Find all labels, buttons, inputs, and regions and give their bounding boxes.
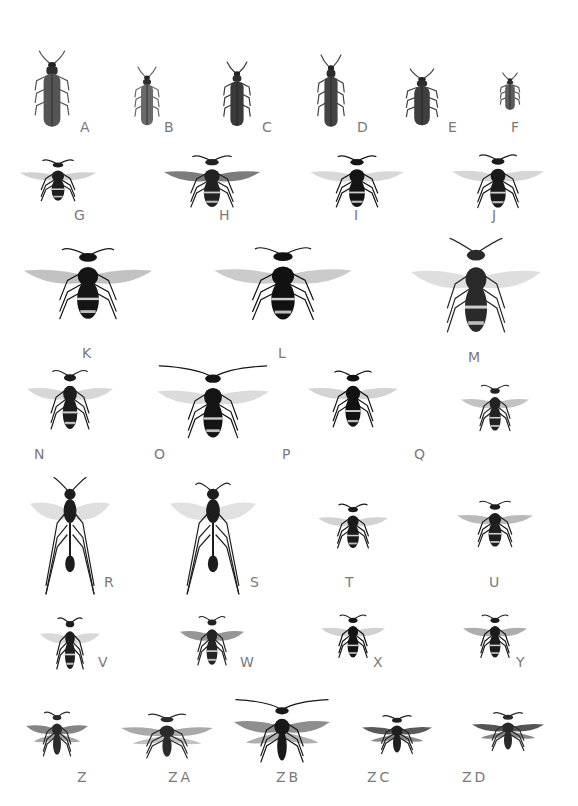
wasp-illustration-icon bbox=[24, 242, 152, 338]
beetle-illustration-icon bbox=[320, 55, 342, 129]
specimen-e bbox=[409, 69, 435, 127]
specimen-g bbox=[20, 156, 96, 212]
specimen-label: S bbox=[250, 575, 262, 589]
specimen-label: P bbox=[282, 447, 293, 461]
specimen-t bbox=[318, 500, 388, 560]
specimen-w bbox=[180, 612, 244, 678]
wasp-illustration-icon bbox=[157, 364, 269, 456]
specimen-label: D bbox=[357, 120, 371, 134]
specimen-n bbox=[27, 365, 113, 445]
specimen-label: Q bbox=[414, 447, 428, 461]
specimen-z bbox=[26, 708, 88, 768]
specimen-label: H bbox=[219, 208, 233, 222]
moth-illustration-icon bbox=[26, 708, 88, 768]
specimen-p bbox=[308, 366, 398, 442]
wasp-illustration-icon bbox=[461, 381, 529, 443]
specimen-label: R bbox=[104, 575, 117, 589]
specimen-zd bbox=[472, 709, 544, 761]
wasp-illustration-icon bbox=[20, 156, 96, 212]
specimen-label: E bbox=[448, 120, 460, 134]
specimen-s bbox=[170, 475, 256, 595]
specimen-v bbox=[40, 613, 100, 683]
specimen-label: U bbox=[489, 575, 502, 589]
wasp-illustration-icon bbox=[308, 366, 398, 442]
beetle-illustration-icon bbox=[38, 51, 66, 129]
specimen-label: K bbox=[82, 346, 94, 360]
specimen-label: ZD bbox=[462, 770, 488, 784]
specimen-label: T bbox=[345, 575, 357, 589]
moth-illustration-icon bbox=[121, 710, 213, 770]
moth-illustration-icon bbox=[362, 712, 432, 764]
specimen-label: M bbox=[468, 350, 483, 364]
ichneumon-illustration-icon bbox=[30, 475, 110, 595]
wasp-illustration-icon bbox=[411, 236, 541, 356]
specimen-h bbox=[164, 151, 260, 221]
specimen-label: ZC bbox=[367, 770, 392, 784]
specimen-label: W bbox=[240, 655, 257, 669]
specimen-label: C bbox=[262, 120, 275, 134]
wasp-illustration-icon bbox=[318, 500, 388, 560]
specimen-l bbox=[214, 241, 352, 339]
specimen-label: Y bbox=[516, 655, 528, 669]
specimen-plate: ABCDEFGHIJKLMNOPQRSTUVWXYZZAZBZCZD bbox=[0, 0, 578, 806]
specimen-label: ZA bbox=[168, 770, 193, 784]
specimen-m bbox=[411, 236, 541, 356]
specimen-label: V bbox=[98, 655, 111, 669]
specimen-label: A bbox=[80, 120, 93, 134]
specimen-label: I bbox=[354, 208, 361, 222]
moth-illustration-icon bbox=[234, 698, 330, 778]
wasp-illustration-icon bbox=[40, 613, 100, 683]
specimen-c bbox=[226, 62, 248, 128]
specimen-o bbox=[157, 364, 269, 456]
wasp-illustration-icon bbox=[164, 151, 260, 221]
wasp-illustration-icon bbox=[180, 612, 244, 678]
specimen-b bbox=[137, 67, 157, 127]
specimen-za bbox=[121, 710, 213, 770]
specimen-zc bbox=[362, 712, 432, 764]
specimen-label: F bbox=[511, 120, 522, 134]
wasp-illustration-icon bbox=[214, 241, 352, 339]
specimen-d bbox=[320, 55, 342, 129]
specimen-r bbox=[30, 475, 110, 595]
specimen-label: X bbox=[373, 655, 386, 669]
specimen-label: Z bbox=[77, 770, 90, 784]
specimen-label: L bbox=[278, 346, 289, 360]
specimen-label: B bbox=[164, 120, 177, 134]
beetle-illustration-icon bbox=[137, 67, 157, 127]
specimen-label: J bbox=[492, 208, 499, 222]
specimen-q bbox=[461, 381, 529, 443]
specimen-label: ZB bbox=[276, 770, 301, 784]
specimen-label: G bbox=[74, 208, 88, 222]
specimen-a bbox=[38, 51, 66, 129]
specimen-k bbox=[24, 242, 152, 338]
specimen-label: N bbox=[34, 447, 47, 461]
wasp-illustration-icon bbox=[27, 365, 113, 445]
beetle-illustration-icon bbox=[409, 69, 435, 127]
specimen-f bbox=[502, 73, 518, 111]
specimen-label: O bbox=[154, 447, 168, 461]
wasp-illustration-icon bbox=[457, 497, 533, 559]
beetle-illustration-icon bbox=[226, 62, 248, 128]
moth-illustration-icon bbox=[472, 709, 544, 761]
specimen-u bbox=[457, 497, 533, 559]
beetle-illustration-icon bbox=[502, 73, 518, 111]
specimen-zb bbox=[234, 698, 330, 778]
ichneumon-illustration-icon bbox=[170, 475, 256, 595]
